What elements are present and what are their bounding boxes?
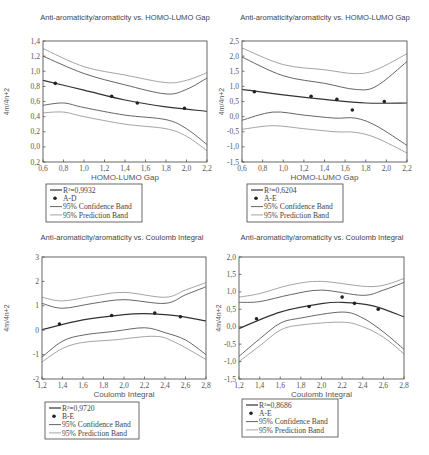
y-tick-label: 1,2 (31, 52, 41, 61)
x-tick-label: 2,0 (382, 164, 392, 173)
y-axis-label: 4m/4n+2 (3, 304, 10, 332)
legend-entry: 95% Prediction Band (259, 426, 324, 435)
y-tick-label: 1,4 (31, 37, 41, 46)
y-tick-label: 0,5 (230, 97, 240, 106)
legend: R²=0,9720B-E95% Confidence Band95% Predi… (45, 402, 139, 439)
y-tick-label: 1 (35, 301, 39, 310)
y-tick-label: 0,5 (227, 305, 237, 314)
x-tick-label: 2,2 (140, 381, 150, 390)
data-point (253, 90, 257, 94)
y-tick-label: 0,2 (31, 127, 41, 136)
x-tick-label: 1,8 (296, 381, 306, 390)
chart-title: Anti-aromaticity/aromaticity vs. Coulomb… (41, 233, 204, 242)
x-tick-label: 1,0 (279, 164, 289, 173)
y-axis-label: 4m/4n+2 (215, 304, 222, 332)
y-tick-label: 0,2 (31, 158, 41, 167)
y-tick-label: 0,6 (31, 97, 41, 106)
x-tick-label: 1,6 (141, 164, 151, 173)
y-tick-label: -1,0 (224, 357, 236, 366)
data-point (353, 302, 357, 306)
data-point (183, 107, 187, 111)
x-tick-label: 1,2 (100, 164, 110, 173)
regression-line (239, 302, 404, 328)
confidence-band-upper (42, 287, 206, 308)
prediction-band-upper (43, 49, 207, 83)
plot-area (43, 49, 207, 151)
x-tick-label: 0,8 (258, 164, 268, 173)
y-tick-label: 1,0 (230, 82, 240, 91)
data-point (376, 307, 380, 311)
x-tick-label: 1,4 (255, 381, 265, 390)
plot-area (242, 48, 407, 153)
x-tick-label: 1,4 (320, 164, 330, 173)
x-axis-label: Coulomb Integral (94, 390, 155, 399)
x-tick-label: 2,6 (379, 381, 389, 390)
x-axis-label: Coulomb Integral (291, 390, 352, 399)
plot-area (239, 279, 404, 362)
data-point (179, 315, 183, 319)
y-tick-label: 0,4 (31, 112, 41, 121)
data-point (335, 98, 339, 102)
y-tick-label: 2,0 (230, 52, 240, 61)
y-tick-label: -2 (33, 375, 40, 384)
y-tick-label: -1,0 (227, 142, 239, 151)
y-tick-label: 0,8 (31, 82, 41, 91)
prediction-band-upper (42, 283, 206, 301)
x-tick-label: 2,0 (119, 381, 129, 390)
data-point (309, 95, 313, 99)
x-tick-label: 1,0 (79, 164, 89, 173)
legend-entry: 95% Prediction Band (63, 211, 128, 220)
x-tick-label: 1,6 (340, 164, 350, 173)
prediction-band-lower (42, 336, 206, 362)
x-tick-label: 1,2 (299, 164, 309, 173)
y-tick-label: -1 (33, 350, 40, 359)
y-tick-label: 1,0 (227, 287, 237, 296)
x-tick-label: 1,8 (161, 164, 171, 173)
y-tick-label: 1,0 (31, 67, 41, 76)
chart-grid: Anti-aromaticity/aromaticity vs. HOMO-LU… (0, 0, 429, 455)
data-point (58, 322, 62, 326)
prediction-band-lower (43, 112, 207, 151)
data-point (54, 82, 58, 86)
chart-homo-lumo-a-d: Anti-aromaticity/aromaticity vs. HOMO-LU… (3, 13, 212, 222)
legend-entry: 95% Prediction Band (264, 211, 329, 220)
chart-coulomb-a-e: Anti-aromaticity/aromaticity vs. Coulomb… (215, 233, 409, 437)
y-tick-label: 0,0 (230, 112, 240, 121)
y-tick-label: 0,0 (31, 142, 41, 151)
legend: R²=0,6204A-E95% Confidence Band95% Predi… (247, 184, 343, 222)
y-tick-label: 1,5 (230, 67, 240, 76)
x-tick-label: 1,4 (58, 381, 68, 390)
legend: R²=0,9932A-D95% Confidence Band95% Predi… (46, 184, 142, 222)
data-point (307, 305, 311, 309)
x-tick-label: 0,8 (59, 164, 69, 173)
plot-frame (43, 41, 207, 162)
y-tick-label: 1,5 (227, 270, 237, 279)
x-tick-label: 1,6 (78, 381, 88, 390)
x-tick-label: 2,6 (181, 381, 191, 390)
confidence-band-lower (42, 328, 206, 357)
x-tick-label: 2,0 (317, 381, 327, 390)
chart-homo-lumo-a-e: Anti-aromaticity/aromaticity vs. HOMO-LU… (218, 13, 412, 222)
confidence-band-upper (242, 57, 407, 90)
y-tick-label: 0,0 (227, 322, 237, 331)
legend-entry: 95% Prediction Band (62, 429, 127, 438)
chart-title: Anti-aromaticity/aromaticity vs. HOMO-LU… (240, 13, 410, 22)
x-tick-label: 2,2 (402, 164, 412, 173)
data-point (255, 317, 259, 321)
data-point (110, 314, 114, 318)
data-point (340, 295, 344, 299)
y-axis-label: 4m/4n+2 (218, 88, 225, 116)
regression-line (242, 89, 407, 103)
chart-title: Anti-aromaticity/aromaticity vs. Coulomb… (241, 233, 404, 242)
y-tick-label: 0 (35, 326, 39, 335)
x-tick-label: 1,8 (361, 164, 371, 173)
y-tick-label: -0,5 (227, 127, 239, 136)
y-tick-label: 2,5 (230, 37, 240, 46)
prediction-band-lower (239, 322, 404, 361)
y-tick-label: -1,5 (224, 375, 236, 384)
y-tick-label: 2,0 (227, 253, 237, 262)
plot-area (42, 283, 206, 362)
data-point (110, 94, 114, 98)
y-tick-label: -1,5 (227, 158, 239, 167)
data-point (351, 108, 355, 112)
